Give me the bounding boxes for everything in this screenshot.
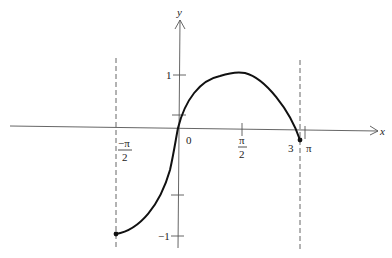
x-axis xyxy=(10,126,378,131)
start-point xyxy=(114,232,119,237)
x-axis-label: x xyxy=(379,125,385,137)
x-tick-label-neg-pi-num: −π xyxy=(118,137,130,149)
x-tick-label-pi: π xyxy=(306,142,312,154)
sine-graph: x y 1 −1 −π 2 0 π 2 3 π xyxy=(0,0,392,258)
x-tick-label-three: 3 xyxy=(288,142,294,154)
x-tick-label-neg-pi-den: 2 xyxy=(122,151,128,163)
x-tick-label-pi-num: π xyxy=(239,134,245,146)
x-tick-label-pi-den: 2 xyxy=(239,148,245,160)
sine-curve xyxy=(116,72,300,234)
origin-label: 0 xyxy=(186,134,192,146)
y-axis-label: y xyxy=(176,6,182,18)
y-tick-label-1: 1 xyxy=(166,69,172,81)
y-tick-label-neg-1: −1 xyxy=(158,230,170,242)
end-point xyxy=(298,138,303,143)
y-axis xyxy=(178,20,180,248)
